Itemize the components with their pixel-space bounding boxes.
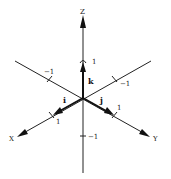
j-label: j xyxy=(99,95,103,105)
x-neg-tick-label: −1 xyxy=(120,80,130,88)
x-axis-label: X xyxy=(9,135,14,143)
y-pos-tick-label: 1 xyxy=(117,104,121,112)
z-axis-arrowhead xyxy=(80,15,86,28)
j-vector xyxy=(83,98,108,112)
y-axis-label: Y xyxy=(152,135,158,143)
x-axis-arrowhead xyxy=(17,129,28,137)
i-arrowhead xyxy=(53,107,63,115)
y-axis-arrowhead xyxy=(139,129,150,137)
x-axis xyxy=(20,61,151,135)
j-arrowhead xyxy=(104,107,114,115)
coordinate-diagram: Z X Y k i j 1 −1 1 −1 1 −1 xyxy=(0,0,171,179)
i-label: i xyxy=(63,95,66,105)
k-label: k xyxy=(88,76,94,86)
x-pos-tick-label: 1 xyxy=(56,118,60,126)
z-pos-tick-label: 1 xyxy=(92,58,96,66)
i-vector xyxy=(58,98,83,112)
z-axis-label: Z xyxy=(80,8,85,16)
k-arrowhead xyxy=(80,62,86,72)
y-neg-tick-label: −1 xyxy=(44,68,54,76)
z-neg-tick-label: −1 xyxy=(88,133,98,141)
